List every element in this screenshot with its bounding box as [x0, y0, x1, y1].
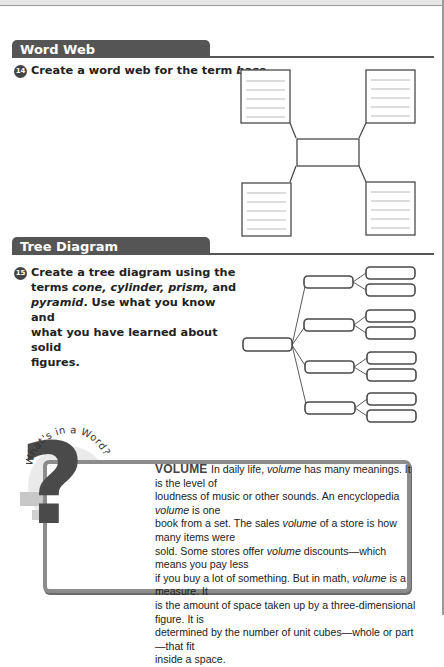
definition-line: book from a set. The sales volume of a s…	[155, 517, 417, 544]
definition-line: VOLUME In daily life, volume has many me…	[155, 463, 417, 490]
svg-text:What's in a Word?: What's in a Word?	[26, 424, 111, 466]
whats-in-a-word-label: What's in a Word?	[26, 420, 111, 470]
definition-line: determined by the number of unit cubes—w…	[155, 626, 417, 653]
definition-line: if you buy a lot of something. But in ma…	[155, 572, 417, 599]
definition-line: is the amount of space taken up by a thr…	[155, 599, 417, 626]
definition-line: inside a space.	[155, 653, 417, 667]
definition-line: loudness of music or other sounds. An en…	[155, 490, 417, 517]
whats-in-a-word-text: VOLUME In daily life, volume has many me…	[155, 463, 417, 667]
definition-term: VOLUME	[155, 462, 211, 476]
definition-line: sold. Some stores offer volume discounts…	[155, 545, 417, 572]
